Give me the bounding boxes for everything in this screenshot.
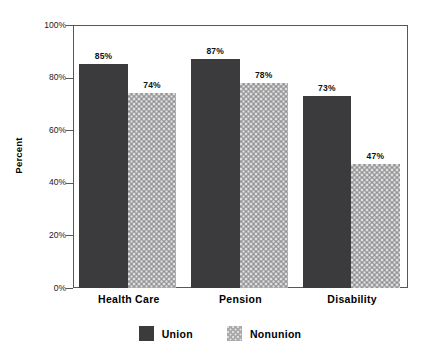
y-axis-tick: 80%	[0, 73, 66, 82]
y-axis-tick-mark	[66, 288, 73, 289]
legend-item-union[interactable]: Union	[139, 326, 193, 341]
bar-chart: Percent 0%20%40%60%80%100% 85%74%87%78%7…	[0, 0, 440, 357]
y-axis-tick: 20%	[0, 231, 66, 240]
y-axis-tick-label: 20%	[32, 231, 66, 240]
legend-swatch-union-icon	[139, 326, 154, 341]
legend-swatch-nonunion-icon	[227, 326, 242, 341]
y-axis-tick-label: 100%	[32, 21, 66, 30]
y-axis-tick: 40%	[0, 178, 66, 187]
bar-value-label: 47%	[345, 151, 406, 161]
y-axis-tick-label: 40%	[32, 178, 66, 187]
y-axis-tick-mark	[66, 25, 73, 26]
x-axis-label-disability: Disability	[286, 293, 418, 305]
y-axis-tick-mark	[66, 235, 73, 236]
y-axis-tick-label: 60%	[32, 126, 66, 135]
y-axis-tick-label: 0%	[32, 284, 66, 293]
bar-health-care-nonunion	[128, 93, 177, 288]
bar-value-label: 85%	[73, 51, 134, 61]
bar-value-label: 78%	[234, 70, 295, 80]
bar-value-label: 74%	[122, 80, 183, 90]
y-axis-tick-mark	[66, 78, 73, 79]
y-axis-tick-mark	[66, 130, 73, 131]
bar-value-label: 87%	[185, 46, 246, 56]
y-axis-tick-label: 80%	[32, 73, 66, 82]
y-axis-tick: 100%	[0, 21, 66, 30]
y-axis-tick: 0%	[0, 284, 66, 293]
legend: Union Nonunion	[0, 326, 440, 341]
bar-disability-union	[303, 96, 352, 288]
legend-item-nonunion[interactable]: Nonunion	[227, 326, 301, 341]
bar-disability-nonunion	[351, 164, 400, 288]
y-axis-tick: 60%	[0, 126, 66, 135]
bar-pension-nonunion	[240, 83, 289, 288]
y-axis-tick-mark	[66, 183, 73, 184]
legend-label-nonunion: Nonunion	[250, 328, 301, 340]
bar-health-care-union	[79, 64, 128, 288]
bar-value-label: 73%	[297, 83, 358, 93]
legend-label-union: Union	[162, 328, 193, 340]
bar-pension-union	[191, 59, 240, 288]
